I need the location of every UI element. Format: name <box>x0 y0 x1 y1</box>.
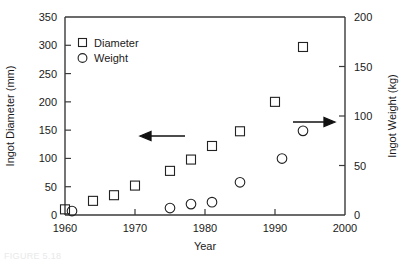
marker-diameter <box>271 97 280 106</box>
marker-weight <box>235 178 245 188</box>
x-tick-label: 1970 <box>123 222 147 234</box>
chart-figure: 050100150200250300350 050100150200 19601… <box>0 0 407 261</box>
y2-tick-label: 0 <box>354 209 360 221</box>
x-tick-label: 1960 <box>53 222 77 234</box>
scatter-plot: 050100150200250300350 050100150200 19601… <box>0 0 407 261</box>
x-axis-title: Year <box>194 240 217 252</box>
legend: Diameter Weight <box>78 37 139 65</box>
y-tick-label: 0 <box>51 209 57 221</box>
y-tick-label: 150 <box>39 124 57 136</box>
marker-weight <box>207 197 217 207</box>
marker-diameter <box>208 141 217 150</box>
y2-tick-label: 150 <box>354 61 372 73</box>
marker-weight <box>165 203 175 213</box>
y-right-axis-title: Ingot Weight (kg) <box>386 74 398 158</box>
y-left-axis-title: Ingot Diameter (mm) <box>4 66 16 167</box>
y-tick-label: 250 <box>39 68 57 80</box>
marker-diameter <box>299 42 308 51</box>
data-markers <box>61 42 308 215</box>
y-tick-label: 300 <box>39 39 57 51</box>
marker-diameter <box>131 181 140 190</box>
marker-diameter <box>236 127 245 136</box>
figure-caption: FIGURE 5.18 <box>4 251 61 261</box>
y2-tick-label: 100 <box>354 110 372 122</box>
left-axis-arrow <box>140 132 185 141</box>
x-axis-ticks: 19601970198019902000 <box>53 209 357 234</box>
y2-tick-label: 50 <box>354 160 366 172</box>
marker-weight <box>277 154 287 164</box>
marker-diameter <box>89 196 98 205</box>
right-axis-arrow <box>293 118 335 127</box>
y2-tick-label: 200 <box>354 11 372 23</box>
y-tick-label: 100 <box>39 152 57 164</box>
y-tick-label: 50 <box>45 181 57 193</box>
y-tick-label: 200 <box>39 96 57 108</box>
x-tick-label: 1990 <box>263 222 287 234</box>
x-tick-label: 2000 <box>333 222 357 234</box>
x-tick-label: 1980 <box>193 222 217 234</box>
marker-weight <box>186 199 196 209</box>
marker-diameter <box>166 166 175 175</box>
legend-label-weight: Weight <box>94 52 128 64</box>
legend-label-diameter: Diameter <box>94 37 139 49</box>
y-tick-label: 350 <box>39 11 57 23</box>
marker-diameter <box>187 155 196 164</box>
marker-weight <box>298 126 308 136</box>
left-axis-ticks: 050100150200250300350 <box>39 11 71 221</box>
legend-marker-diameter <box>79 39 87 47</box>
legend-marker-weight <box>78 54 87 63</box>
right-axis-ticks: 050100150200 <box>339 11 372 221</box>
marker-diameter <box>110 191 119 200</box>
